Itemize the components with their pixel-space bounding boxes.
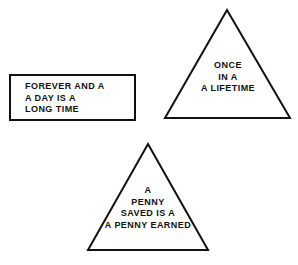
triangle-top-label: ONCE IN A A LIFETIME (188, 60, 268, 95)
diagram-canvas: FOREVER AND A A DAY IS A LONG TIME ONCE … (0, 0, 298, 265)
rectangle-label: FOREVER AND A A DAY IS A LONG TIME (25, 81, 105, 116)
triangle-bottom-label: A PENNY SAVED IS A A PENNY EARNED (98, 185, 198, 231)
